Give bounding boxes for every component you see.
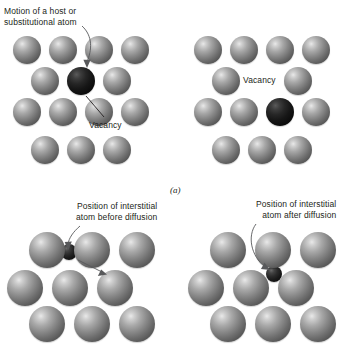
vacancy-label-text: Vacancy [89, 120, 122, 131]
host-atom [302, 36, 330, 64]
panel-interstitial-diffusion-before: Position of interstitial atom before dif… [0, 190, 181, 354]
host-atom [284, 67, 312, 95]
host-atom [212, 67, 240, 95]
panel-vacancy-diffusion-before: Motion of a host or substitutional atom … [0, 0, 181, 190]
diffusion-mechanism-figure: Motion of a host or substitutional atom … [0, 0, 362, 354]
host-atom [266, 36, 294, 64]
interstitial-after-pointer [181, 190, 362, 354]
host-atom [230, 36, 258, 64]
host-atom [284, 136, 312, 164]
vacancy-leader-line [0, 0, 181, 190]
vacancy-label: Vacancy [243, 75, 276, 86]
host-atom [194, 36, 222, 64]
host-atom [302, 98, 330, 126]
vacancy-label: Vacancy [89, 120, 122, 131]
dark-atom [266, 98, 294, 126]
host-atom [248, 136, 276, 164]
interstitial-before-pointer [0, 190, 181, 354]
vacancy-label-text: Vacancy [243, 75, 276, 86]
host-atom [230, 98, 258, 126]
host-atom [194, 98, 222, 126]
host-atom [212, 136, 240, 164]
panel-interstitial-diffusion-after: Position of interstitial atom after diff… [181, 190, 362, 354]
panel-vacancy-diffusion-after: Vacancy [181, 0, 362, 190]
